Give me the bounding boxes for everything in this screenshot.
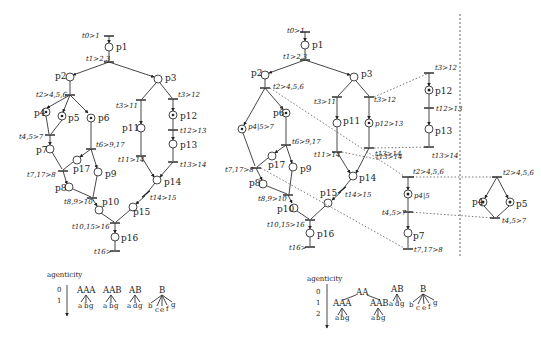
place-p11 bbox=[333, 119, 341, 127]
sub-label-p4-5: p4|5 bbox=[414, 192, 430, 200]
label-p16: p16 bbox=[121, 233, 138, 243]
label-t16: t16> bbox=[94, 248, 112, 256]
label-p6: p6 bbox=[98, 113, 110, 123]
svg-text:e: e bbox=[160, 306, 164, 314]
label-t14: t14>15 bbox=[345, 191, 372, 199]
left-agenticity-tree: agenticity 0 1 AAA a b g AAB a b g AB a … bbox=[47, 271, 176, 316]
label-t1015: t10,15>16 bbox=[72, 223, 110, 231]
label-p3: p3 bbox=[361, 69, 373, 79]
place-p14 bbox=[153, 176, 161, 184]
label-p11: p11 bbox=[122, 123, 139, 133]
label-p14: p14 bbox=[164, 177, 181, 187]
place-p17 bbox=[73, 156, 81, 164]
sub2-label-p4: p4 bbox=[472, 197, 484, 207]
label-t12: t12>13 bbox=[180, 127, 207, 135]
label-p7: p7 bbox=[36, 145, 48, 155]
label-t1: t1>2,3 bbox=[86, 55, 111, 63]
label-p6: p6 bbox=[273, 108, 285, 118]
svg-text:f: f bbox=[166, 305, 170, 313]
label-t1: t1>2,3 bbox=[283, 53, 308, 61]
place-p3 bbox=[350, 73, 358, 81]
sub-label-t13a: t13>14 bbox=[376, 153, 403, 161]
label-t89: t8,9>10 bbox=[258, 195, 287, 203]
svg-text:a: a bbox=[371, 314, 375, 322]
sub-label-t45: t4,5>7 bbox=[382, 209, 407, 217]
label-t3a: t3>11 bbox=[314, 98, 336, 106]
svg-text:a: a bbox=[103, 302, 107, 310]
sub2-label-t45: t4,5>7 bbox=[502, 217, 527, 225]
tree-node-B: B bbox=[159, 285, 165, 295]
svg-text:b: b bbox=[409, 301, 414, 309]
label-t3b: t3>12 bbox=[178, 91, 201, 99]
transition-t14 bbox=[142, 191, 150, 197]
place-p1 bbox=[301, 41, 309, 49]
label-p2: p2 bbox=[251, 68, 263, 78]
sub-place-p13 bbox=[425, 125, 433, 133]
tree-node-AB: AB bbox=[128, 285, 141, 295]
label-p17: p17 bbox=[268, 160, 285, 170]
svg-text:g: g bbox=[114, 302, 119, 310]
label-p1: p1 bbox=[312, 40, 324, 50]
tree-axis-label: agenticity bbox=[47, 271, 82, 279]
place-p16 bbox=[111, 233, 119, 241]
tree-node-AA: AA bbox=[355, 287, 369, 297]
place-p3 bbox=[154, 75, 162, 83]
label-p2: p2 bbox=[55, 71, 67, 81]
svg-text:g: g bbox=[171, 301, 176, 309]
label-t6: t6>9,17 bbox=[96, 141, 125, 149]
label-p12: p12 bbox=[180, 111, 197, 121]
svg-text:a: a bbox=[335, 314, 339, 322]
label-t717: t7,17>8 bbox=[27, 171, 56, 179]
sub2-label-t2: t2>4,5,6 bbox=[503, 169, 534, 177]
label-p16: p16 bbox=[317, 229, 334, 239]
label-t3b: t3>12 bbox=[374, 96, 397, 104]
place-p17 bbox=[268, 152, 276, 160]
svg-text:g: g bbox=[433, 299, 438, 307]
right-agenticity-tree: agenticity 0 1 2 AA AAA a b g AAB a b g … bbox=[307, 275, 438, 328]
label-t13: t13>14 bbox=[180, 161, 207, 169]
place-p9 bbox=[94, 168, 102, 176]
label-p5: p5 bbox=[68, 113, 80, 123]
tree-level-0: 0 bbox=[316, 288, 320, 296]
label-t6: t6>9,17 bbox=[292, 138, 321, 146]
tree-level-2: 2 bbox=[316, 310, 320, 318]
label-p1: p1 bbox=[116, 42, 128, 52]
label-t3a: t3>11 bbox=[116, 102, 138, 110]
label-p3: p3 bbox=[165, 73, 177, 83]
place-p16 bbox=[306, 229, 314, 237]
svg-text:g: g bbox=[89, 302, 94, 310]
sub-label-t717: t7,17>8 bbox=[414, 246, 443, 254]
label-t2: t2>4,5,6 bbox=[273, 83, 304, 91]
svg-text:c: c bbox=[155, 306, 159, 314]
place-p1 bbox=[105, 43, 113, 51]
label-t1015: t10,15>16 bbox=[267, 221, 305, 229]
place-p14 bbox=[349, 172, 357, 180]
sub-label-t2: t2>4,5,6 bbox=[413, 168, 444, 176]
label-p9: p9 bbox=[300, 164, 312, 174]
place-p15 bbox=[324, 199, 332, 207]
tree-level-1: 1 bbox=[57, 297, 61, 305]
sub-label-p12: p12 bbox=[435, 86, 452, 96]
svg-text:g: g bbox=[345, 314, 350, 322]
label-t0: t0>1 bbox=[82, 32, 100, 40]
petri-net-diagram: t0>1 p1 t1>2,3 p2 p3 t2>4,5,6 p4 p5 p6 bbox=[0, 0, 541, 341]
label-p11: p11 bbox=[343, 116, 360, 126]
label-p4: p4 bbox=[34, 108, 46, 118]
label-t14: t14>15 bbox=[150, 194, 177, 202]
label-p4-5: p4|5>7 bbox=[248, 123, 275, 131]
svg-text:a: a bbox=[127, 302, 131, 310]
label-p17: p17 bbox=[73, 164, 90, 174]
sub2-label-p5: p5 bbox=[516, 199, 528, 209]
tree-axis-label: agenticity bbox=[307, 275, 342, 283]
label-p15: p15 bbox=[133, 207, 150, 217]
svg-text:g: g bbox=[138, 302, 143, 310]
svg-text:g: g bbox=[381, 314, 386, 322]
svg-text:a: a bbox=[389, 300, 393, 308]
svg-text:e: e bbox=[422, 304, 426, 312]
svg-text:f: f bbox=[428, 303, 432, 311]
label-p9: p9 bbox=[105, 169, 117, 179]
sub-label-t13b: t13>14 bbox=[432, 152, 459, 160]
label-p14: p14 bbox=[359, 173, 376, 183]
label-p10: p10 bbox=[102, 197, 119, 207]
tree-node-AAA: AAA bbox=[332, 298, 352, 308]
